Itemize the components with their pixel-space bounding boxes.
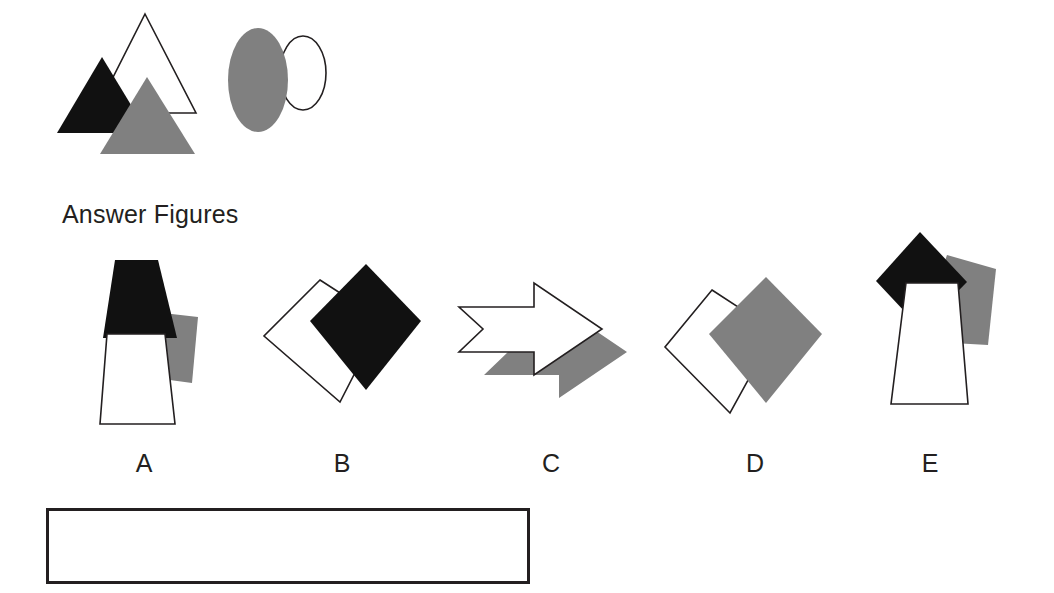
answer-figures (100, 232, 996, 424)
gray-triangle-shape (100, 77, 195, 154)
answer-label-d[interactable]: D (735, 449, 775, 478)
a-gray-trapezoid-shape (155, 313, 198, 383)
gray-ellipse-shape (228, 28, 288, 132)
black-triangle-shape (57, 57, 148, 133)
a-black-trapezoid-shape (103, 260, 177, 338)
d-white-square-shape (665, 290, 775, 413)
white-ellipse-shape (280, 36, 326, 110)
answer-option-b[interactable] (264, 264, 421, 402)
answer-option-d[interactable] (665, 277, 822, 413)
question-figure (57, 14, 326, 154)
c-gray-arrow-shape (484, 306, 627, 398)
white-triangle-shape (95, 14, 196, 113)
figures-layer (0, 0, 1054, 593)
e-black-diamond-shape (876, 232, 967, 329)
answer-label-b[interactable]: B (322, 449, 362, 478)
worksheet-canvas: Answer Figures A B C D E (0, 0, 1054, 593)
answer-option-c[interactable] (459, 283, 627, 398)
answer-option-a[interactable] (100, 260, 198, 424)
b-white-square-shape (264, 280, 382, 402)
d-gray-diamond-shape (709, 277, 822, 403)
c-white-arrow-shape (459, 283, 602, 375)
a-white-trapezoid-shape (100, 334, 175, 424)
answer-label-a[interactable]: A (124, 449, 164, 478)
answer-label-e[interactable]: E (910, 449, 950, 478)
b-black-diamond-shape (310, 264, 421, 390)
e-gray-trapezoid-shape (917, 255, 996, 345)
e-white-trapezoid-shape (891, 283, 968, 404)
answer-response-box[interactable] (46, 508, 530, 584)
answer-label-c[interactable]: C (531, 449, 571, 478)
answer-option-e[interactable] (876, 232, 996, 404)
answer-figures-heading: Answer Figures (62, 200, 238, 229)
